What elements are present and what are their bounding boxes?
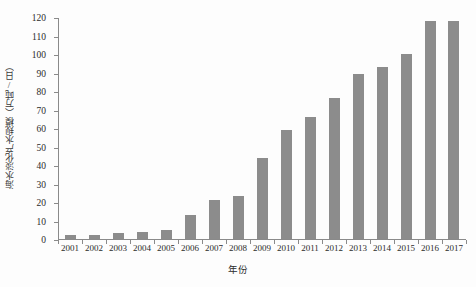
bar-slot — [322, 18, 346, 239]
x-tick-label: 2009 — [250, 243, 274, 259]
bar-slot — [155, 18, 179, 239]
bar — [161, 230, 172, 239]
y-axis: 0102030405060708090100110120 — [0, 0, 58, 287]
y-tick-label: 30 — [16, 180, 46, 190]
bar-slot — [394, 18, 418, 239]
x-tick-label: 2014 — [370, 243, 394, 259]
bar-slot — [59, 18, 83, 239]
bar-slot — [227, 18, 251, 239]
y-tick-label: 50 — [16, 143, 46, 153]
bar-chart: 海水淡化产水规模（万吨/日） 0102030405060708090100110… — [0, 0, 476, 287]
x-tick-label: 2007 — [202, 243, 226, 259]
x-tick-label: 2003 — [106, 243, 130, 259]
x-tick-label: 2015 — [394, 243, 418, 259]
x-tick-label: 2017 — [442, 243, 466, 259]
bar — [209, 200, 220, 239]
y-tick-label: 40 — [16, 161, 46, 171]
x-tick-label: 2013 — [346, 243, 370, 259]
bar-slot — [203, 18, 227, 239]
y-tick-label: 120 — [16, 13, 46, 23]
x-tick-label: 2010 — [274, 243, 298, 259]
bar-slot — [418, 18, 442, 239]
bar — [89, 235, 100, 239]
plot-area — [58, 18, 466, 240]
y-tick-label: 20 — [16, 198, 46, 208]
bar-slot — [298, 18, 322, 239]
y-tick-label: 0 — [16, 235, 46, 245]
y-tick-label: 100 — [16, 50, 46, 60]
bar-slot — [131, 18, 155, 239]
bar-slot — [107, 18, 131, 239]
bar-slot — [442, 18, 466, 239]
x-tick-label: 2006 — [178, 243, 202, 259]
x-tick-label: 2005 — [154, 243, 178, 259]
x-axis-title: 年份 — [0, 262, 476, 276]
bar — [353, 74, 364, 239]
bar — [233, 196, 244, 239]
x-tick-label: 2002 — [82, 243, 106, 259]
y-tick-label: 90 — [16, 69, 46, 79]
bar — [281, 130, 292, 239]
bar-slot — [370, 18, 394, 239]
bar — [185, 215, 196, 239]
x-tick-label: 2012 — [322, 243, 346, 259]
bar — [257, 158, 268, 239]
bar-slot — [346, 18, 370, 239]
bar — [305, 117, 316, 239]
bar-slot — [83, 18, 107, 239]
x-tick-label: 2016 — [418, 243, 442, 259]
bar — [65, 235, 76, 239]
y-tick-label: 110 — [16, 32, 46, 42]
x-tick-label: 2008 — [226, 243, 250, 259]
x-tick-label: 2004 — [130, 243, 154, 259]
y-tick-label: 80 — [16, 87, 46, 97]
bar — [425, 21, 436, 239]
bar — [329, 98, 340, 239]
bar — [137, 232, 148, 239]
bar — [377, 67, 388, 239]
bars-layer — [59, 18, 466, 239]
bar — [401, 54, 412, 239]
y-tick-label: 10 — [16, 217, 46, 227]
x-tick-label: 2011 — [298, 243, 322, 259]
bar-slot — [251, 18, 275, 239]
bar — [448, 21, 459, 239]
x-tick-label: 2001 — [58, 243, 82, 259]
bar-slot — [274, 18, 298, 239]
y-tick-label: 60 — [16, 124, 46, 134]
bar — [113, 233, 124, 239]
y-tick-label: 70 — [16, 106, 46, 116]
bar-slot — [179, 18, 203, 239]
x-axis-labels: 2001200220032004200520062007200820092010… — [58, 243, 466, 259]
x-tick-mark — [466, 240, 467, 244]
